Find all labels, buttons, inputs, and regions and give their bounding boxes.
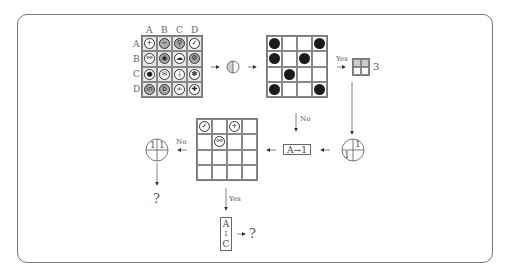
range-box-top: A [223, 219, 230, 229]
yes-label-bottom: Yes [229, 196, 241, 203]
circle-left-right-value: 1 [159, 141, 165, 150]
range-arrow-icon: ↕ [223, 231, 229, 238]
circle-left-left-value: 1 [150, 141, 156, 150]
question-left: ? [153, 192, 160, 205]
range-box-bottom: C [223, 239, 230, 249]
question-bottom: ? [249, 227, 256, 240]
range-box: A ↕ C [220, 217, 232, 251]
